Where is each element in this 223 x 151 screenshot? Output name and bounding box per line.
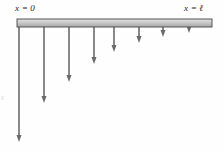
arrow-head-icon [17, 135, 22, 142]
beam-bar [17, 19, 212, 27]
axis-label-right: x = ℓ [184, 3, 203, 13]
load-arrow [137, 27, 142, 43]
load-arrow-group [17, 26, 192, 142]
diagram-canvas [0, 0, 223, 151]
beam-group [17, 19, 212, 27]
load-arrow [112, 27, 117, 52]
beam-load-diagram: x = 0 x = ℓ [0, 0, 223, 151]
arrow-head-icon [92, 57, 97, 64]
arrow-head-icon [112, 45, 117, 52]
axis-label-left: x = 0 [15, 3, 35, 13]
load-arrow [67, 27, 72, 82]
load-arrow [17, 27, 22, 142]
scan-artifact-speck [1, 96, 4, 100]
arrow-head-icon [161, 30, 166, 37]
load-arrow [161, 27, 166, 37]
arrow-head-icon [137, 36, 142, 43]
load-arrow [42, 27, 47, 103]
arrow-head-icon [67, 75, 72, 82]
load-arrow [92, 27, 97, 64]
arrow-head-icon [42, 96, 47, 103]
